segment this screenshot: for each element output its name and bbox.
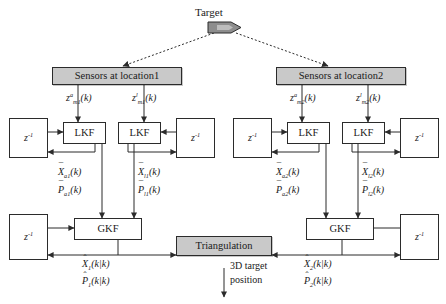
wire-lkf-l1-to-delay2: [128, 144, 176, 152]
wire-lkf-a2-to-delay3: [272, 144, 319, 152]
measurement-z-l-m1: zlm1(k): [132, 92, 156, 103]
triangulation-label: Triangulation: [196, 240, 253, 251]
lkf-output-a2-state: ̅Xa2(k): [276, 166, 299, 177]
wire-lkf-l2-to-delay4: [352, 144, 400, 152]
sensors-location1-box[interactable]: Sensors at location1: [52, 67, 182, 85]
z-arg: (k): [369, 92, 380, 103]
lkf-a1-label: LKF: [75, 127, 95, 138]
lkf-output-a1-cov: ̅Pa1(k): [58, 184, 81, 195]
lkf-output-a1-state: ̅Xa1(k): [58, 166, 81, 177]
delay-z-inv-4-box[interactable]: z-1: [400, 118, 439, 158]
final-output-line1: 3D target: [230, 260, 267, 271]
sensors-location2-label: Sensors at location2: [299, 70, 384, 81]
final-output-line2: position: [230, 274, 262, 285]
target-icon: [207, 21, 243, 34]
wire-lkf-a1-to-delay1: [48, 144, 95, 152]
wire-target-to-loc2: [236, 33, 328, 66]
lkf-a2-label: LKF: [299, 127, 319, 138]
lkf-l1-box[interactable]: LKF: [118, 122, 161, 144]
delay-z-inv-6-box[interactable]: z-1: [400, 214, 439, 260]
gkf1-box[interactable]: GKF: [74, 218, 142, 240]
gkf1-output-state: ̂X1(k|k): [82, 258, 110, 269]
z-sub: m1: [73, 98, 81, 105]
measurement-z-a-m2: zam2(k): [290, 92, 316, 103]
lkf-output-a2-cov: ̅Pa2(k): [276, 184, 299, 195]
gkf2-output-cov: ̂P2(k|k): [304, 275, 332, 286]
gkf1-output-cov: ̂P1(k|k): [82, 275, 110, 286]
lkf-l1-label: LKF: [130, 127, 150, 138]
lkf-output-l1-state: ̅Xl1(k): [138, 166, 160, 177]
lkf-output-l1-cov: ̅Pl1(k): [138, 184, 160, 195]
delay-z-inv-2-box[interactable]: z-1: [176, 118, 215, 158]
delay-z-inv-6-label: z-1: [415, 232, 424, 243]
diagram-canvas: Target Sensors at location1 Sensors at l…: [0, 0, 446, 304]
gkf2-label: GKF: [329, 223, 350, 234]
delay-z-inv-5-box[interactable]: z-1: [9, 214, 48, 260]
gkf2-box[interactable]: GKF: [306, 218, 374, 240]
lkf-l2-label: LKF: [354, 127, 374, 138]
delay-z-inv-1-label: z-1: [24, 133, 33, 144]
delay-z-inv-3-label: z-1: [248, 133, 257, 144]
sensors-location1-label: Sensors at location1: [75, 70, 160, 81]
z-arg: (k): [145, 92, 156, 103]
delay-z-inv-4-label: z-1: [415, 133, 424, 144]
delay-z-inv-3-box[interactable]: z-1: [233, 118, 272, 158]
z-arg: (k): [305, 92, 316, 103]
lkf-a1-box[interactable]: LKF: [63, 122, 106, 144]
connector-layer: [0, 0, 446, 304]
lkf-l2-box[interactable]: LKF: [342, 122, 385, 144]
z-sup: l: [136, 91, 138, 98]
wire-target-to-loc1: [123, 33, 214, 66]
delay-z-inv-1-box[interactable]: z-1: [9, 118, 48, 158]
lkf-output-l2-cov: ̅Pl2(k): [362, 184, 384, 195]
z-sup: l: [360, 91, 362, 98]
lkf-output-l2-state: ̅Xl2(k): [362, 166, 384, 177]
wire-gkf2-to-delay6: [342, 240, 400, 255]
delay-z-inv-5-label: z-1: [24, 232, 33, 243]
target-label: Target: [195, 6, 223, 18]
z-sup: a: [294, 91, 297, 98]
z-arg: (k): [81, 92, 92, 103]
sensors-location2-box[interactable]: Sensors at location2: [276, 67, 406, 85]
gkf1-label: GKF: [97, 223, 118, 234]
lkf-a2-box[interactable]: LKF: [287, 122, 330, 144]
triangulation-box[interactable]: Triangulation: [176, 236, 272, 256]
delay-z-inv-2-label: z-1: [191, 133, 200, 144]
z-sub: m2: [297, 98, 305, 105]
z-sup: a: [70, 91, 73, 98]
measurement-z-l-m2: zlm2(k): [356, 92, 380, 103]
gkf2-output-state: ̂X2(k|k): [304, 258, 332, 269]
measurement-z-a-m1: zam1(k): [66, 92, 92, 103]
